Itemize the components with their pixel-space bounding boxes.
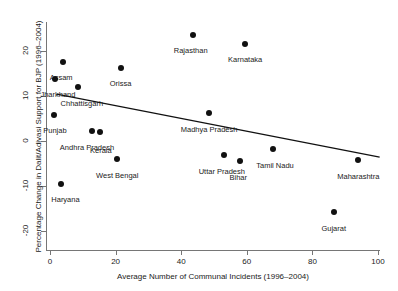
x-tick-label: 20 — [101, 257, 131, 266]
data-point-label: Kerala — [90, 146, 112, 155]
data-point — [190, 32, 196, 38]
data-point-label: Rajasthan — [174, 46, 208, 55]
y-axis-title: Percentage Change in Dalit/Adivasi Suppo… — [34, 7, 43, 267]
x-tick-label: 100 — [363, 257, 393, 266]
x-tick — [247, 250, 248, 255]
data-point — [114, 156, 120, 162]
data-point — [52, 76, 58, 82]
data-point — [355, 157, 361, 163]
x-axis-line — [46, 250, 380, 251]
x-tick-label: 40 — [166, 257, 196, 266]
x-tick-label: 60 — [232, 257, 262, 266]
data-point-label: Maharashtra — [337, 172, 379, 181]
x-tick — [312, 250, 313, 255]
plot-area: -20-1001020 020406080100 RajasthanKarnat… — [0, 0, 398, 291]
data-point — [118, 65, 124, 71]
y-tick-label: 10 — [21, 85, 30, 107]
x-axis-title: Average Number of Communal Incidents (19… — [46, 272, 380, 281]
data-point-label: Orissa — [110, 79, 132, 88]
x-tick — [50, 250, 51, 255]
data-point-label: Chhattisgarh — [61, 99, 104, 108]
data-point — [270, 146, 276, 152]
data-point-label: Tamil Nadu — [256, 161, 294, 170]
x-tick — [378, 250, 379, 255]
data-point-label: Madhya Pradesh — [181, 125, 238, 134]
data-point — [242, 41, 248, 47]
data-point-label: Haryana — [51, 195, 79, 204]
data-point-label: Gujarat — [321, 224, 346, 233]
data-point-label: Bihar — [229, 173, 247, 182]
data-point — [89, 128, 95, 134]
data-point — [75, 84, 81, 90]
data-point-label: West Bengal — [96, 171, 138, 180]
y-tick-label: -10 — [21, 175, 30, 197]
data-point — [51, 112, 57, 118]
x-tick — [181, 250, 182, 255]
x-tick — [116, 250, 117, 255]
y-tick-label: 0 — [21, 130, 30, 152]
x-tick-label: 80 — [297, 257, 327, 266]
y-tick-label: 20 — [21, 40, 30, 62]
data-point — [221, 152, 227, 158]
data-point — [206, 110, 212, 116]
data-point — [97, 129, 103, 135]
data-point — [331, 209, 337, 215]
data-point — [237, 158, 243, 164]
data-point-label: Punjab — [43, 126, 66, 135]
data-point-label: Karnataka — [228, 55, 262, 64]
data-point-label: Jharkhand — [40, 90, 75, 99]
scatter-plot-figure: -20-1001020 020406080100 RajasthanKarnat… — [0, 0, 398, 291]
data-point — [60, 59, 66, 65]
data-point — [58, 181, 64, 187]
y-axis-line — [46, 22, 47, 250]
y-tick-label: -20 — [21, 220, 30, 242]
